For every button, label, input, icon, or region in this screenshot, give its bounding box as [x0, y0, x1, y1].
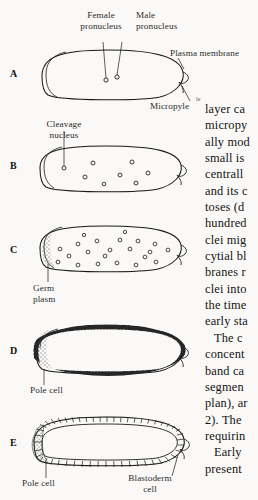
- panel-e-egg: [32, 417, 189, 478]
- label-pole-cell-d: Pole cell: [30, 385, 63, 395]
- panel-a-egg: [42, 42, 190, 101]
- cleavage-nuclei: [62, 160, 150, 186]
- body-line: clei mig: [205, 232, 258, 248]
- body-line: 2). The: [205, 412, 258, 428]
- label-germ-plasm-line2: plasm: [33, 294, 55, 304]
- body-line: present: [205, 461, 258, 477]
- body-line: band ca: [205, 363, 258, 379]
- panel-letter-d: D: [10, 345, 17, 356]
- body-line: clei into: [205, 281, 258, 297]
- body-line: toses (d: [205, 199, 258, 215]
- body-line: layer ca: [205, 101, 258, 117]
- body-line: the time: [205, 297, 258, 313]
- body-line: cytial bl: [205, 248, 258, 264]
- body-line: plan), ar: [205, 395, 258, 411]
- body-line: Early: [205, 444, 258, 460]
- figure-drawing: [0, 0, 205, 500]
- body-line: The c: [205, 330, 258, 346]
- panel-d-egg: [35, 327, 188, 385]
- label-cleavage-nucleus-line1: Cleavage: [24, 119, 104, 129]
- embryogenesis-figure: A B C D E Female pronucleus Male pronucl…: [0, 0, 205, 500]
- panel-letter-e: E: [10, 437, 17, 448]
- label-female-pronucleus-line2: pronucleus: [66, 21, 136, 31]
- body-line: micropy: [205, 117, 258, 133]
- migrating-nuclei: [56, 230, 170, 267]
- body-text-column: layer ca micropy ally mod small is centr…: [205, 0, 258, 500]
- body-line: hundred: [205, 215, 258, 231]
- body-line: branes r: [205, 264, 258, 280]
- body-line: ally mod: [205, 134, 258, 150]
- figure-page: A B C D E Female pronucleus Male pronucl…: [0, 0, 258, 500]
- blastoderm-cells: [34, 417, 185, 467]
- panel-c-egg: [40, 226, 186, 282]
- text-fragment-above: le: [196, 96, 200, 102]
- panel-letter-b: B: [10, 160, 17, 171]
- label-male-pronucleus-line1: Male: [136, 10, 155, 20]
- label-pole-cell-e: Pole cell: [22, 478, 55, 488]
- label-female-pronucleus-line1: Female: [70, 10, 132, 20]
- label-blastoderm-cell-line2: cell: [114, 484, 186, 494]
- body-line: centrall: [205, 166, 258, 182]
- panel-letter-c: C: [10, 244, 17, 255]
- label-cleavage-nucleus-line2: nucleus: [24, 130, 104, 140]
- body-line: early sta: [205, 313, 258, 329]
- label-germ-plasm-line1: Germ: [33, 283, 54, 293]
- label-male-pronucleus-line2: pronucleus: [136, 21, 177, 31]
- body-line: requirin: [205, 428, 258, 444]
- panel-letter-a: A: [10, 68, 17, 79]
- body-line: segmen: [205, 379, 258, 395]
- body-line: concent: [205, 346, 258, 362]
- body-line: small is: [205, 150, 258, 166]
- label-micropyle: Micropyle: [150, 101, 189, 111]
- body-line: and its c: [205, 183, 258, 199]
- label-blastoderm-cell-line1: Blastoderm: [114, 473, 186, 483]
- syncytial-nuclei-ring: [36, 327, 183, 374]
